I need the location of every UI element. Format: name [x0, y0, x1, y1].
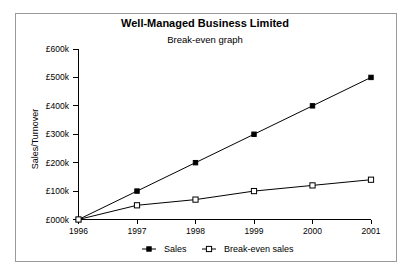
legend-key-marker-1 [206, 246, 211, 251]
data-point-marker [76, 217, 81, 222]
x-tick-label: 1999 [245, 226, 264, 236]
data-point-marker [251, 188, 256, 193]
y-tick-label: £500k [46, 72, 70, 82]
data-point-marker [135, 189, 139, 193]
data-point-marker [310, 104, 314, 108]
breakeven-line-chart: Well-Managed Business Limited Break-even… [0, 0, 411, 275]
series-line-1 [79, 180, 372, 220]
series-line-0 [79, 77, 372, 219]
data-point-marker [368, 177, 373, 182]
legend-label-1: Break-even sales [224, 244, 294, 254]
data-point-marker [193, 197, 198, 202]
series-layer [76, 75, 374, 222]
legend-label-0: Sales [164, 244, 187, 254]
data-point-marker [134, 203, 139, 208]
x-tick-label: 1997 [128, 226, 147, 236]
x-axis-ticks: 199619971998199920002001 [69, 220, 381, 237]
legend-key-marker-0 [147, 247, 151, 251]
data-point-marker [252, 132, 256, 136]
data-point-marker [310, 183, 315, 188]
y-tick-label: £200k [46, 158, 70, 168]
x-tick-label: 2001 [362, 226, 381, 236]
chart-legend: SalesBreak-even sales [142, 244, 294, 254]
y-axis-ticks: £000k£100k£200k£300k£400k£500k£600k [46, 44, 79, 225]
x-tick-label: 1996 [69, 226, 88, 236]
y-tick-label: £600k [46, 44, 70, 54]
data-point-marker [369, 75, 373, 79]
x-tick-label: 1998 [186, 226, 205, 236]
chart-title: Well-Managed Business Limited [121, 17, 289, 29]
data-point-marker [193, 160, 197, 164]
chart-figure: Well-Managed Business Limited Break-even… [0, 0, 411, 275]
y-axis-title: Sales/Turnover [30, 109, 40, 170]
y-tick-label: £100k [46, 186, 70, 196]
y-tick-label: £400k [46, 101, 70, 111]
y-tick-label: £000k [46, 215, 70, 225]
chart-subtitle: Break-even graph [167, 34, 243, 45]
y-tick-label: £300k [46, 129, 70, 139]
x-tick-label: 2000 [303, 226, 322, 236]
